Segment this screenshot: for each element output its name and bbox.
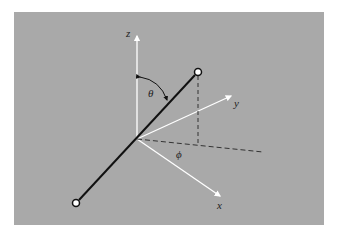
atom-lower bbox=[73, 200, 80, 207]
rotor-diagram: z y x θ ϕ bbox=[0, 0, 338, 235]
atom-upper bbox=[195, 69, 202, 76]
z-label: z bbox=[125, 27, 131, 39]
y-label: y bbox=[233, 97, 239, 109]
phi-label: ϕ bbox=[176, 148, 182, 160]
theta-label: θ bbox=[148, 87, 154, 99]
x-label: x bbox=[216, 199, 222, 211]
diagram-background bbox=[14, 12, 324, 225]
